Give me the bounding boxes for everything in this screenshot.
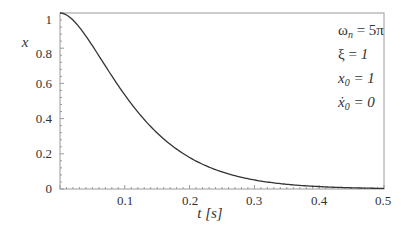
y-tick-0: 0 xyxy=(46,181,53,196)
x-tick-0.4: 0.4 xyxy=(311,193,328,208)
axis-ticks xyxy=(60,13,384,189)
response-curve xyxy=(60,13,384,188)
plot-frame xyxy=(60,13,384,189)
y-tick-labels: 0 0.2 0.4 0.6 0.8 1 xyxy=(36,12,53,196)
annotation-omega: ωn = 5π xyxy=(338,22,384,40)
x-axis-label: t [s] xyxy=(197,205,223,221)
parameter-annotations: ωn = 5π ξ = 1 x0 = 1 ẋ0 = 0 xyxy=(337,22,384,112)
x-tick-labels: 0.1 0.2 0.3 0.4 0.5 xyxy=(117,193,391,208)
x-tick-0.5: 0.5 xyxy=(375,193,391,208)
x-tick-0.2: 0.2 xyxy=(182,193,198,208)
annotation-x0: x0 = 1 xyxy=(337,70,375,88)
y-tick-0.4: 0.4 xyxy=(36,111,53,126)
y-tick-1: 1 xyxy=(46,12,53,27)
chart: 0 0.2 0.4 0.6 0.8 1 0.1 0.2 0.3 0.4 0.5 … xyxy=(0,0,407,230)
x-tick-0.1: 0.1 xyxy=(117,193,133,208)
annotation-v0: ẋ0 = 0 xyxy=(337,94,375,112)
y-tick-0.2: 0.2 xyxy=(36,146,52,161)
y-tick-0.8: 0.8 xyxy=(36,46,52,61)
x-tick-0.3: 0.3 xyxy=(246,193,262,208)
y-axis-label: x xyxy=(21,34,29,50)
annotation-xi: ξ = 1 xyxy=(338,46,368,62)
y-tick-0.6: 0.6 xyxy=(36,76,53,91)
